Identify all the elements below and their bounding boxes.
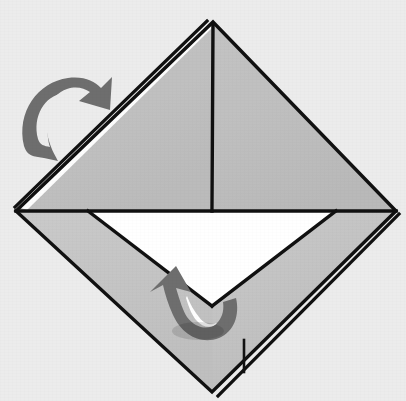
origami-diagram: Origami folding step diagram A square sh… xyxy=(0,0,406,401)
arrow-shadow-group xyxy=(172,322,224,340)
origami-figure-svg xyxy=(0,0,406,401)
fold-arrow-bottom-shadow xyxy=(172,322,224,340)
center-crease-line xyxy=(212,24,213,211)
